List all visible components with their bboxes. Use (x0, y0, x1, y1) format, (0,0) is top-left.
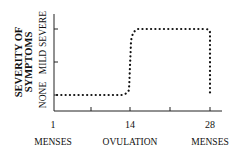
y-label-mild: MILD (38, 50, 48, 74)
y-axis-title-line2: SYMPTOMS (23, 32, 34, 93)
x-tick-label-1: 1 (51, 119, 56, 130)
y-label-severe: SEVERE (38, 11, 48, 47)
x-tick-label-28: 28 (205, 119, 215, 130)
x-label-menses-start: MENSES (34, 137, 71, 147)
y-label-none: NONE (38, 82, 48, 109)
severity-curve (57, 29, 210, 95)
x-label-ovulation: OVULATION (103, 137, 158, 147)
severity-chart: SEVERITY OF SYMPTOMS NONE MILD SEVERE 1 … (0, 0, 236, 154)
x-label-menses-end: MENSES (191, 137, 228, 147)
x-tick-label-14: 14 (125, 119, 135, 130)
